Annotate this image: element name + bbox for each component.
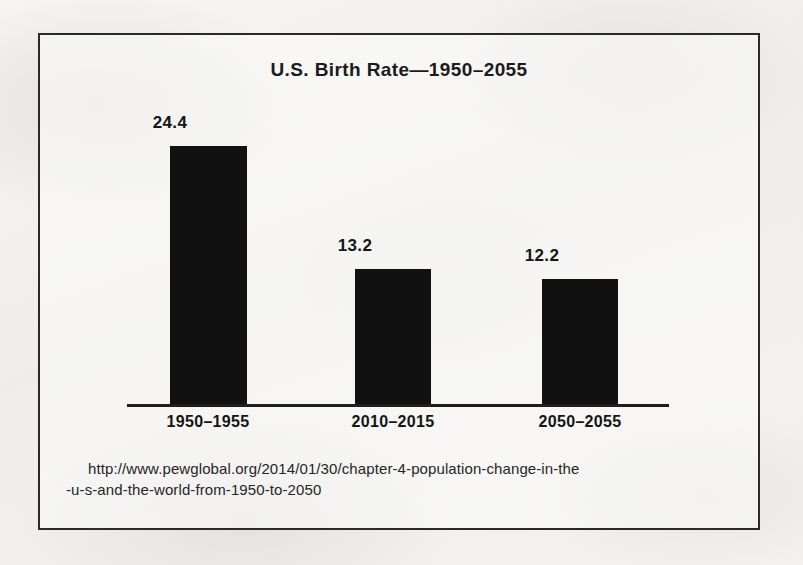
bar-value-label: 13.2 <box>295 236 415 256</box>
bar-1950-1955 <box>170 146 247 404</box>
category-label-2010-2015: 2010–2015 <box>313 413 473 431</box>
source-url-line-2: -u-s-and-the-world-from-1950-to-2050 <box>66 479 736 500</box>
x-axis-line <box>127 404 669 407</box>
bar-2050-2055 <box>542 279 618 404</box>
bar-value-label: 12.2 <box>482 246 602 266</box>
category-label-2050-2055: 2050–2055 <box>500 413 660 431</box>
source-url-line-1: http://www.pewglobal.org/2014/01/30/chap… <box>66 458 736 479</box>
bar-value-label: 24.4 <box>110 113 230 133</box>
bar-2010-2015 <box>355 269 431 404</box>
category-label-1950-1955: 1950–1955 <box>128 413 288 431</box>
source-caption: http://www.pewglobal.org/2014/01/30/chap… <box>66 458 736 500</box>
figure-frame: U.S. Birth Rate—1950–2055 24.4 1950–1955… <box>38 33 760 530</box>
